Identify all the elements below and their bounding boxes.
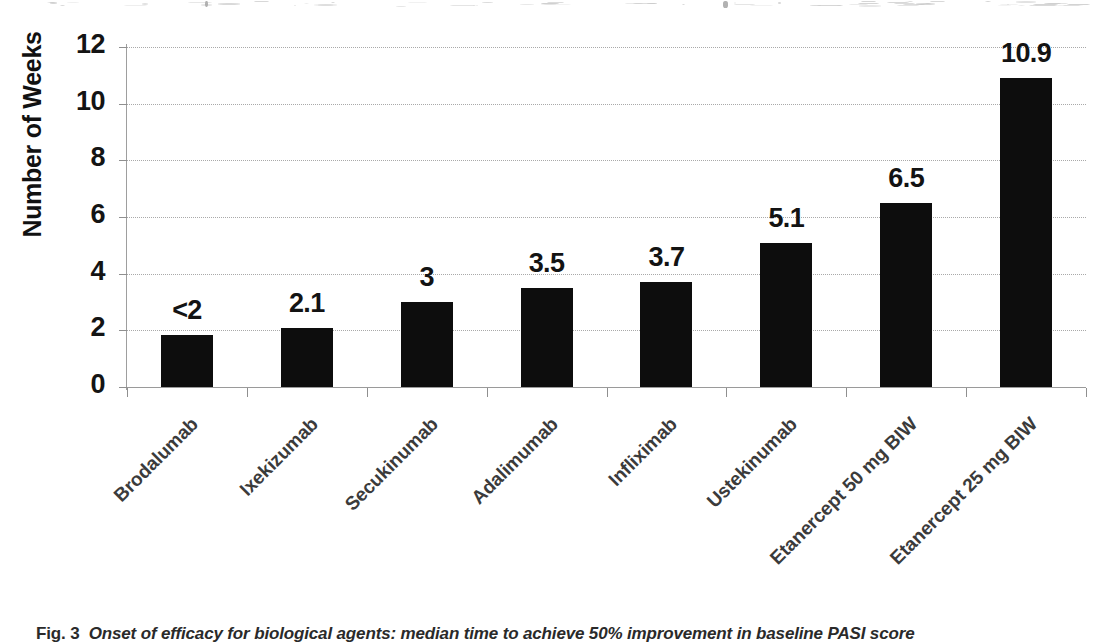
bar	[161, 335, 213, 387]
bar-value-label: 3.7	[596, 242, 736, 273]
plot-area	[127, 47, 1086, 387]
x-category-label: Etanercept 50 mg BIW	[715, 413, 921, 619]
x-category-label: Secukinumab	[236, 413, 442, 619]
x-tick-mark	[607, 388, 608, 397]
x-category-label: Infliximab	[476, 413, 682, 619]
x-category-label: Ixekizumab	[116, 413, 322, 619]
y-tick-label-12: 12	[0, 29, 105, 60]
y-tick-mark-10	[119, 104, 127, 105]
x-category-label: Adalimumab	[356, 413, 562, 619]
figure-caption-text: Onset of efficacy for biological agents:…	[89, 624, 915, 643]
bar	[1000, 78, 1052, 387]
x-tick-mark	[367, 388, 368, 397]
gridline-6	[127, 217, 1086, 218]
y-tick-label-10: 10	[0, 86, 105, 117]
bar	[521, 288, 573, 387]
gridline-2	[127, 330, 1086, 331]
x-tick-mark	[1086, 388, 1087, 397]
figure-caption: Fig. 3 Onset of efficacy for biological …	[36, 624, 1096, 643]
y-tick-mark-6	[119, 217, 127, 218]
bar	[401, 302, 453, 387]
gridline-12	[127, 47, 1086, 48]
y-tick-label-8: 8	[0, 142, 105, 173]
y-tick-mark-12	[119, 47, 127, 48]
bar	[760, 243, 812, 388]
bar-value-label: 10.9	[956, 38, 1096, 69]
x-tick-mark	[726, 388, 727, 397]
x-tick-mark	[846, 388, 847, 397]
figure-caption-label: Fig. 3	[36, 624, 80, 643]
bar	[880, 203, 932, 387]
y-tick-label-0: 0	[0, 369, 105, 400]
x-tick-mark	[966, 388, 967, 397]
gridline-10	[127, 104, 1086, 105]
y-tick-mark-4	[119, 274, 127, 275]
x-tick-mark	[487, 388, 488, 397]
bar-value-label: 5.1	[716, 203, 856, 234]
gridline-8	[127, 160, 1086, 161]
x-category-label: Etanercept 25 mg BIW	[835, 413, 1041, 619]
y-tick-label-4: 4	[0, 256, 105, 287]
bar	[640, 282, 692, 387]
y-tick-label-6: 6	[0, 199, 105, 230]
y-tick-mark-0	[119, 387, 127, 388]
x-tick-mark	[127, 388, 128, 397]
x-category-label: Ustekinumab	[596, 413, 802, 619]
x-category-label: Brodalumab	[0, 413, 203, 619]
y-tick-mark-8	[119, 160, 127, 161]
y-tick-mark-2	[119, 330, 127, 331]
x-tick-mark	[247, 388, 248, 397]
y-tick-label-2: 2	[0, 312, 105, 343]
bar	[281, 328, 333, 388]
figure-bar-chart: Number of Weeks 024681012 <22.133.53.75.…	[0, 0, 1120, 643]
bar-value-label: 6.5	[836, 163, 976, 194]
